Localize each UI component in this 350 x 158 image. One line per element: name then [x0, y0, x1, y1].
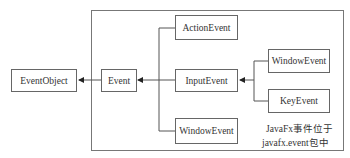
node-event: Event: [101, 69, 137, 92]
caption-line-1: JavaFx事件位于: [266, 121, 333, 135]
node-key-event: KeyEvent: [268, 89, 330, 113]
caption-line-2: javafx.event包中: [262, 135, 329, 149]
node-input-event: InputEvent: [175, 69, 238, 92]
node-event-object: EventObject: [11, 69, 77, 92]
node-window-event-right: WindowEvent: [268, 49, 330, 73]
node-action-event: ActionEvent: [175, 15, 238, 40]
node-window-event-bottom: WindowEvent: [175, 118, 238, 144]
